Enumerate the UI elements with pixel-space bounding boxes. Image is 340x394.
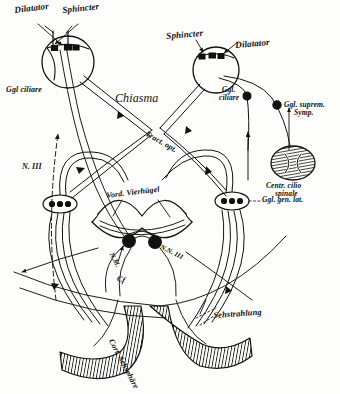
left-eye-leaders bbox=[38, 24, 78, 45]
edinger-westphal-nucleus bbox=[123, 235, 136, 248]
right-lateral-geniculate-body bbox=[215, 192, 249, 210]
figure-canvas: Dilatator Sphincter Ggl ciliare Sphincte… bbox=[0, 0, 340, 394]
label-ggl-ciliare-right-2: ciliare bbox=[219, 94, 239, 102]
optic-tract-right bbox=[160, 128, 226, 196]
optic-nerve-left bbox=[80, 76, 152, 136]
superior-colliculi bbox=[92, 200, 192, 237]
right-eye-muscle-marks bbox=[199, 53, 224, 59]
left-eye-muscle-marks bbox=[52, 31, 80, 51]
label-nervus-iii: N. III bbox=[22, 163, 42, 171]
label-ggl-suprem-symp-2: Symp. bbox=[294, 109, 313, 117]
label-ggl-gen-lat: Ggl. gen. lat. bbox=[262, 196, 303, 204]
flow-arrowheads bbox=[51, 111, 232, 294]
label-chiasma: Chiasma bbox=[115, 92, 158, 104]
optic-nerve-right bbox=[160, 84, 205, 134]
label-ggl-ciliare-left: Ggl ciliare bbox=[6, 86, 42, 94]
ciliospinal-center bbox=[271, 146, 315, 180]
left-lateral-geniculate-body bbox=[43, 195, 77, 213]
